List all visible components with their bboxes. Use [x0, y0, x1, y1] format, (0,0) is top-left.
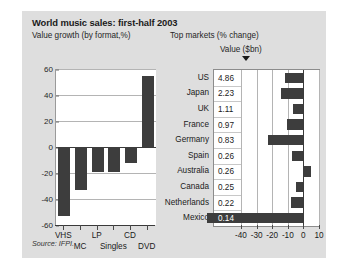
- market-bar: [292, 151, 303, 161]
- left-bar: [142, 76, 154, 148]
- market-bar: [303, 166, 311, 176]
- right-x-tick-label: -20: [266, 231, 278, 240]
- market-value-label: 0.26: [218, 151, 234, 160]
- right-x-tick-label: -40: [235, 231, 247, 240]
- left-x-tick: [147, 225, 148, 230]
- left-y-tick-label: 60: [44, 65, 56, 74]
- left-category-label: CD: [124, 231, 136, 240]
- left-bar: [108, 147, 120, 172]
- right-zero-line: [303, 70, 304, 226]
- market-bar: [285, 73, 303, 83]
- right-x-tick: [303, 225, 304, 229]
- left-category-label: Singles: [100, 242, 127, 251]
- left-y-tick-label: 0: [49, 143, 56, 152]
- right-x-tick: [319, 225, 320, 229]
- market-value-column: 4.862.231.110.970.830.260.260.250.220.14: [213, 69, 243, 227]
- value-row-separator: [214, 164, 242, 165]
- right-plot-area: [241, 69, 320, 227]
- right-x-tick: [241, 225, 242, 229]
- market-value-label: 0.83: [218, 136, 234, 145]
- left-bar-chart: 6040200-20-40-60 VHSMCLPSinglesCDDVD: [32, 63, 160, 233]
- market-value-label: 0.22: [218, 198, 234, 207]
- right-x-tick-label: -30: [251, 231, 263, 240]
- right-gridline: [319, 70, 320, 226]
- left-gridline: [56, 199, 156, 200]
- down-triangle-icon: [242, 56, 250, 61]
- market-bar: [293, 104, 303, 114]
- left-bar: [125, 147, 137, 163]
- left-category-label: MC: [74, 242, 87, 251]
- right-x-tick-label: 0: [301, 231, 306, 240]
- value-column-header: Value ($bn): [220, 45, 262, 54]
- value-row-separator: [214, 195, 242, 196]
- market-bar: [291, 197, 303, 207]
- market-name-label: Mexico: [183, 213, 209, 222]
- left-chart-subtitle: Value growth (by format,%): [32, 31, 131, 40]
- market-value-label: 2.23: [218, 89, 234, 98]
- left-y-tick-label: -40: [41, 195, 56, 204]
- left-y-tick-label: 20: [44, 117, 56, 126]
- market-name-label: Canada: [180, 182, 209, 191]
- left-y-tick-label: -60: [41, 221, 56, 230]
- left-gridline: [56, 173, 156, 174]
- value-row-separator: [214, 210, 242, 211]
- source-note: Source: IFPI.: [32, 239, 74, 248]
- market-name-label: US: [198, 72, 209, 81]
- right-x-tick: [288, 225, 289, 229]
- value-row-separator: [214, 148, 242, 149]
- left-bar: [75, 147, 87, 190]
- right-gridline: [257, 70, 258, 226]
- left-x-tick: [80, 225, 81, 230]
- market-value-label: 0.97: [218, 120, 234, 129]
- left-x-tick: [113, 225, 114, 230]
- right-x-tick-label: 10: [314, 231, 323, 240]
- market-name-label: Netherlands: [165, 197, 209, 206]
- market-name-label: France: [184, 119, 209, 128]
- left-y-tick-label: -20: [41, 169, 56, 178]
- right-x-tick-label: -10: [282, 231, 294, 240]
- left-gridline: [56, 69, 156, 70]
- market-name-label: UK: [198, 104, 209, 113]
- market-name-label: Spain: [188, 150, 209, 159]
- left-x-tick: [63, 225, 64, 230]
- market-value-label: 0.26: [218, 167, 234, 176]
- chart-figure: World music sales: first-half 2003 Value…: [0, 0, 348, 270]
- right-gridline: [272, 70, 273, 226]
- left-zero-line: [56, 147, 156, 148]
- right-x-tick: [257, 225, 258, 229]
- right-chart-subtitle: Top markets (% change): [170, 31, 259, 40]
- market-bar: [281, 88, 304, 98]
- right-gridline: [241, 70, 242, 226]
- value-row-separator: [214, 86, 242, 87]
- value-row-separator: [214, 179, 242, 180]
- market-value-label: 0.14: [218, 214, 234, 223]
- right-x-tick: [272, 225, 273, 229]
- market-value-label: 0.25: [218, 183, 234, 192]
- left-category-label: DVD: [138, 242, 155, 251]
- chart-panel: World music sales: first-half 2003 Value…: [22, 11, 326, 258]
- left-x-tick: [130, 225, 131, 230]
- left-baseline: [55, 225, 155, 226]
- market-name-label: Australia: [177, 166, 209, 175]
- market-bar: [296, 182, 304, 192]
- chart-title: World music sales: first-half 2003: [32, 17, 177, 28]
- market-name-column: USJapanUKFranceGermanySpainAustraliaCana…: [167, 69, 213, 225]
- left-plot-area: 6040200-20-40-60: [55, 69, 156, 225]
- value-row-separator: [214, 117, 242, 118]
- left-bar: [92, 147, 104, 172]
- value-row-separator: [214, 101, 242, 102]
- market-bar: [268, 135, 303, 145]
- market-value-label: 4.86: [218, 73, 234, 82]
- market-value-label: 1.11: [218, 105, 233, 114]
- left-y-tick-label: 40: [44, 91, 56, 100]
- left-bar: [58, 147, 70, 216]
- left-category-label: LP: [92, 231, 102, 240]
- value-row-separator: [214, 132, 242, 133]
- market-bar: [287, 119, 303, 129]
- market-name-label: Germany: [175, 135, 209, 144]
- left-x-tick: [97, 225, 98, 230]
- right-market-chart: USJapanUKFranceGermanySpainAustraliaCana…: [167, 63, 319, 233]
- market-name-label: Japan: [187, 88, 209, 97]
